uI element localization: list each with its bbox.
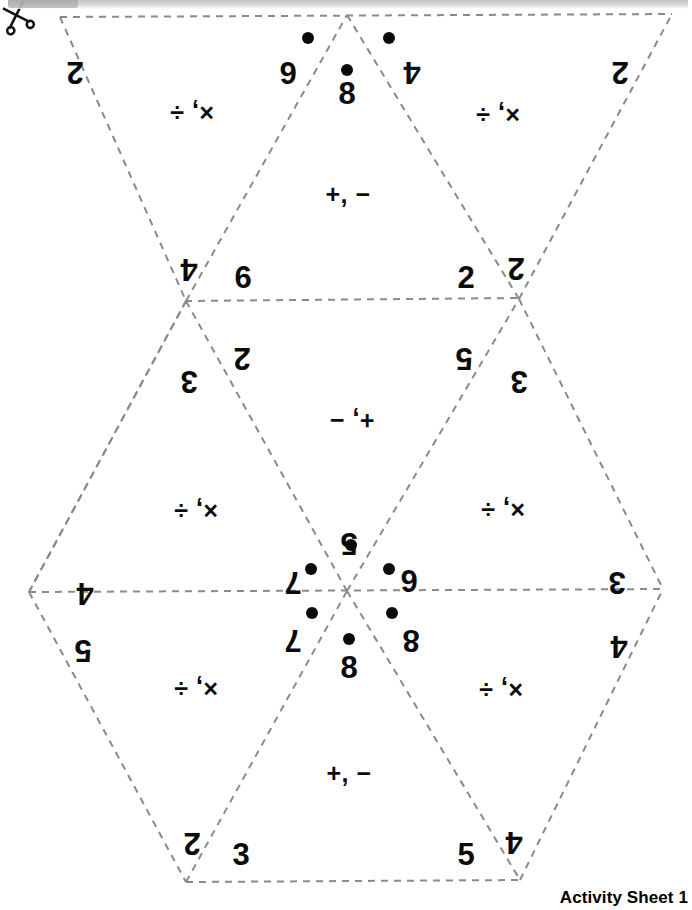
- t1-corner-2: 6: [279, 55, 296, 90]
- triangle-t7-bot-left-down: 5 7 2 ×, ÷: [74, 607, 318, 861]
- scan-artifact-bar: [8, 0, 688, 9]
- flexagon-template-graphic: 2 6 4 ×, ÷ 8 6 2 +, − 4 2 2 ×, ÷ 3 4 7: [0, 0, 692, 910]
- cut-line-top: [60, 14, 672, 17]
- t8-operators: +, −: [326, 759, 371, 787]
- triangle-t4-mid-left-up: 3 4 7 ×, ÷: [76, 364, 317, 611]
- fold-line-m5: [519, 299, 663, 589]
- fold-line-m2: [29, 301, 186, 592]
- t4-corner-1: 3: [180, 364, 197, 399]
- t3-corner-1: 4: [403, 55, 421, 90]
- t1-corner-1: 2: [66, 55, 83, 90]
- t7-corner-2: 7: [284, 623, 301, 658]
- t6-operators: ×, ÷: [481, 496, 525, 524]
- fold-lines-group: [29, 14, 672, 882]
- scan-artifact-bar-dark: [8, 0, 78, 8]
- activity-sheet-footer-label: Activity Sheet 1: [560, 888, 688, 908]
- triangle-t1-top-left-down: 2 6 4 ×, ÷: [66, 32, 314, 287]
- t8-corner-3: 5: [457, 837, 474, 872]
- t9-corner-3: 4: [505, 825, 523, 860]
- fold-line-b3: [347, 591, 520, 880]
- t7-corner-2-dot: [306, 607, 318, 619]
- t9-corner-1: 8: [402, 623, 419, 658]
- t2-corner-1-dot: [341, 64, 353, 76]
- t5-corner-2: 5: [455, 341, 472, 376]
- t4-corner-3-dot: [305, 563, 317, 575]
- t1-corner-3: 4: [180, 252, 198, 287]
- t6-corner-1: 3: [510, 364, 527, 399]
- t4-corner-3: 7: [284, 565, 301, 600]
- fold-line-m3: [186, 301, 347, 591]
- t9-operators: ×, ÷: [479, 676, 523, 704]
- t2-corner-3: 2: [457, 260, 474, 295]
- t8-corner-2: 3: [232, 837, 249, 872]
- t9-corner-1-dot: [386, 607, 398, 619]
- t8-corner-1: 8: [340, 650, 357, 685]
- triangle-t6-mid-right-up: 3 6 3 ×, ÷: [383, 364, 626, 600]
- t3-operators: ×, ÷: [476, 101, 520, 129]
- t3-corner-2: 2: [611, 55, 628, 90]
- fold-line-b2: [186, 591, 347, 882]
- fold-line-bottom: [186, 880, 520, 882]
- t4-corner-2: 4: [76, 576, 94, 611]
- t9-corner-2: 4: [610, 629, 628, 664]
- fold-line-m4: [347, 299, 519, 591]
- t3-corner-1-dot: [383, 32, 395, 44]
- fold-line-u3: [347, 15, 519, 299]
- t1-corner-2-dot: [302, 32, 314, 44]
- fold-line-row2: [185, 298, 519, 301]
- fold-line-b1: [29, 592, 186, 882]
- triangle-t3-top-right-down: 4 2 2 ×, ÷: [383, 32, 629, 286]
- fold-line-u4: [519, 14, 672, 299]
- t7-corner-1: 5: [74, 633, 91, 668]
- activity-sheet-page: 2 6 4 ×, ÷ 8 6 2 +, − 4 2 2 ×, ÷ 3 4 7: [0, 0, 692, 910]
- triangle-t2-top-center-up: 8 6 2 +, −: [234, 64, 474, 295]
- t7-corner-3: 2: [183, 826, 200, 861]
- triangle-t8-bot-center-up: 8 3 5 +, −: [232, 633, 474, 872]
- t2-corner-1: 8: [338, 76, 355, 111]
- t5-corner-3-dot: [345, 539, 357, 551]
- t2-operators: +, −: [325, 180, 370, 208]
- t5-corner-1: 2: [233, 341, 250, 376]
- t6-corner-2: 6: [400, 563, 417, 598]
- t2-corner-2: 6: [234, 260, 251, 295]
- t5-operators: +, −: [329, 407, 374, 435]
- fold-line-m1: [29, 301, 186, 592]
- t8-corner-1-dot: [343, 633, 355, 645]
- t1-operators: ×, ÷: [170, 99, 214, 127]
- t4-operators: ×, ÷: [174, 497, 218, 525]
- t3-corner-3: 2: [507, 251, 524, 286]
- t6-corner-2-dot: [383, 563, 395, 575]
- t6-corner-3: 3: [608, 565, 625, 600]
- t7-operators: ×, ÷: [174, 675, 218, 703]
- fold-line-b4: [520, 589, 663, 880]
- fold-line-u2: [186, 15, 347, 301]
